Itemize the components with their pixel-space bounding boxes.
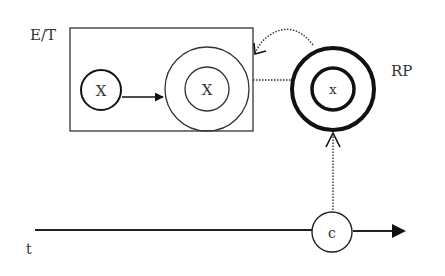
timeline-label: t xyxy=(26,241,32,257)
x-mid-label: X xyxy=(202,81,213,99)
diagram-canvas: E/T X X x RP t c xyxy=(0,0,445,276)
rp-label: RP xyxy=(391,62,412,80)
timeline-arrow-head-icon xyxy=(392,224,406,238)
x-left-label: X xyxy=(96,82,107,100)
curved-dotted-arrow xyxy=(255,29,313,53)
x-rp-label: x xyxy=(329,82,337,97)
et-box xyxy=(70,28,253,131)
et-label: E/T xyxy=(30,26,56,44)
c-label: c xyxy=(328,225,336,241)
